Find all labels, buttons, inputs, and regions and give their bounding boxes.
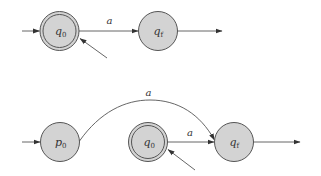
automaton-bottom: p0 a q0 a qf <box>22 87 300 170</box>
incoming-arrow <box>80 39 107 59</box>
incoming-arrow <box>168 150 195 171</box>
transition-label: a <box>107 15 113 26</box>
automaton-top: q0 a qf <box>22 12 222 59</box>
state-qf: qf <box>215 123 254 162</box>
transition-label: a <box>187 127 193 138</box>
state-p0: p0 <box>41 123 80 162</box>
transition-label: a <box>146 87 152 98</box>
automata-diagram: q0 a qf p0 a q0 <box>0 0 321 176</box>
state-q0: q0 <box>40 12 79 51</box>
state-qf: qf <box>139 12 178 51</box>
state-q0: q0 <box>129 123 168 162</box>
